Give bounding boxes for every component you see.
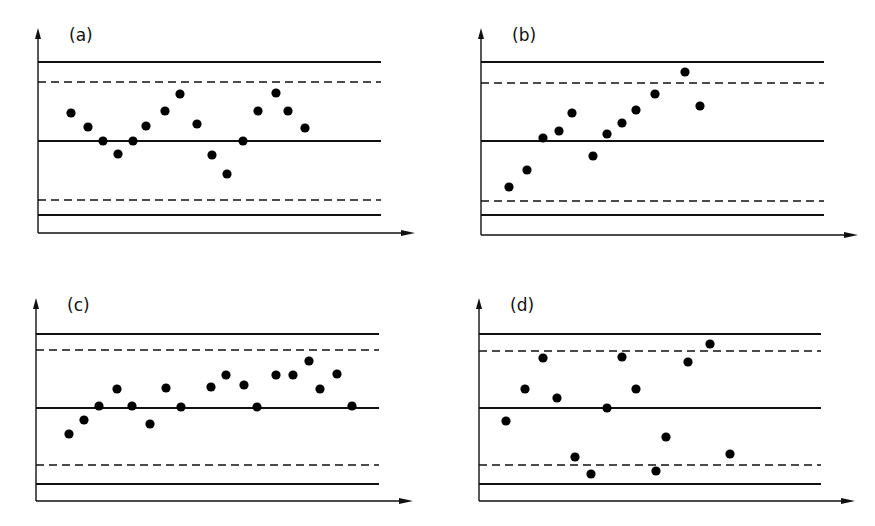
data-point: [705, 339, 714, 348]
data-point: [300, 123, 309, 132]
data-point: [332, 369, 341, 378]
data-point: [271, 88, 280, 97]
x-axis-arrow-icon: [844, 232, 858, 238]
data-point: [253, 106, 262, 115]
data-point: [221, 370, 230, 379]
data-point: [192, 119, 201, 128]
data-point: [175, 89, 184, 98]
data-point: [315, 384, 324, 393]
data-point: [238, 136, 247, 145]
data-point: [504, 182, 513, 191]
data-point: [128, 136, 137, 145]
data-point: [552, 393, 561, 402]
data-point: [554, 126, 563, 135]
data-point: [271, 370, 280, 379]
y-axis-arrow-icon: [35, 28, 41, 39]
panel-label: (d): [510, 295, 534, 315]
data-point: [650, 89, 659, 98]
y-axis-arrow-icon: [478, 28, 484, 39]
data-point: [725, 449, 734, 458]
data-point: [161, 383, 170, 392]
data-point: [112, 384, 121, 393]
data-point: [239, 380, 248, 389]
data-point: [64, 429, 73, 438]
panel-label: (c): [67, 295, 90, 315]
data-point: [83, 122, 92, 131]
data-point: [570, 452, 579, 461]
data-point: [206, 382, 215, 391]
data-point: [347, 401, 356, 410]
data-point: [145, 419, 154, 428]
data-point: [222, 169, 231, 178]
data-point: [695, 101, 704, 110]
data-point: [538, 353, 547, 362]
data-point: [79, 415, 88, 424]
data-point: [538, 133, 547, 142]
data-point: [66, 108, 75, 117]
y-axis-arrow-icon: [476, 298, 482, 309]
chart-panel-d: (d): [476, 295, 855, 504]
data-point: [127, 401, 136, 410]
data-point: [252, 402, 261, 411]
data-point: [586, 469, 595, 478]
data-point: [683, 357, 692, 366]
data-point: [520, 384, 529, 393]
data-point: [160, 106, 169, 115]
data-point: [617, 118, 626, 127]
chart-panel-a: (a): [35, 25, 415, 236]
x-axis-arrow-icon: [401, 230, 415, 236]
x-axis-arrow-icon: [399, 498, 413, 504]
panel-label: (a): [69, 25, 93, 45]
y-axis-arrow-icon: [33, 298, 39, 309]
data-point: [661, 432, 670, 441]
data-point: [567, 108, 576, 117]
data-point: [176, 402, 185, 411]
data-point: [680, 67, 689, 76]
data-point: [602, 403, 611, 412]
data-point: [651, 466, 660, 475]
data-point: [288, 370, 297, 379]
x-axis-arrow-icon: [841, 498, 855, 504]
data-point: [98, 136, 107, 145]
data-point: [631, 105, 640, 114]
chart-panel-b: (b): [478, 25, 858, 238]
data-point: [94, 401, 103, 410]
data-point: [602, 129, 611, 138]
data-point: [617, 352, 626, 361]
data-point: [631, 384, 640, 393]
panel-label: (b): [512, 25, 536, 45]
control-charts-figure: (a)(b)(c)(d): [0, 0, 875, 526]
data-point: [207, 150, 216, 159]
data-point: [283, 106, 292, 115]
data-point: [304, 356, 313, 365]
data-point: [113, 149, 122, 158]
data-point: [522, 165, 531, 174]
chart-panel-c: (c): [33, 295, 413, 504]
data-point: [501, 416, 510, 425]
data-point: [588, 151, 597, 160]
data-point: [141, 121, 150, 130]
